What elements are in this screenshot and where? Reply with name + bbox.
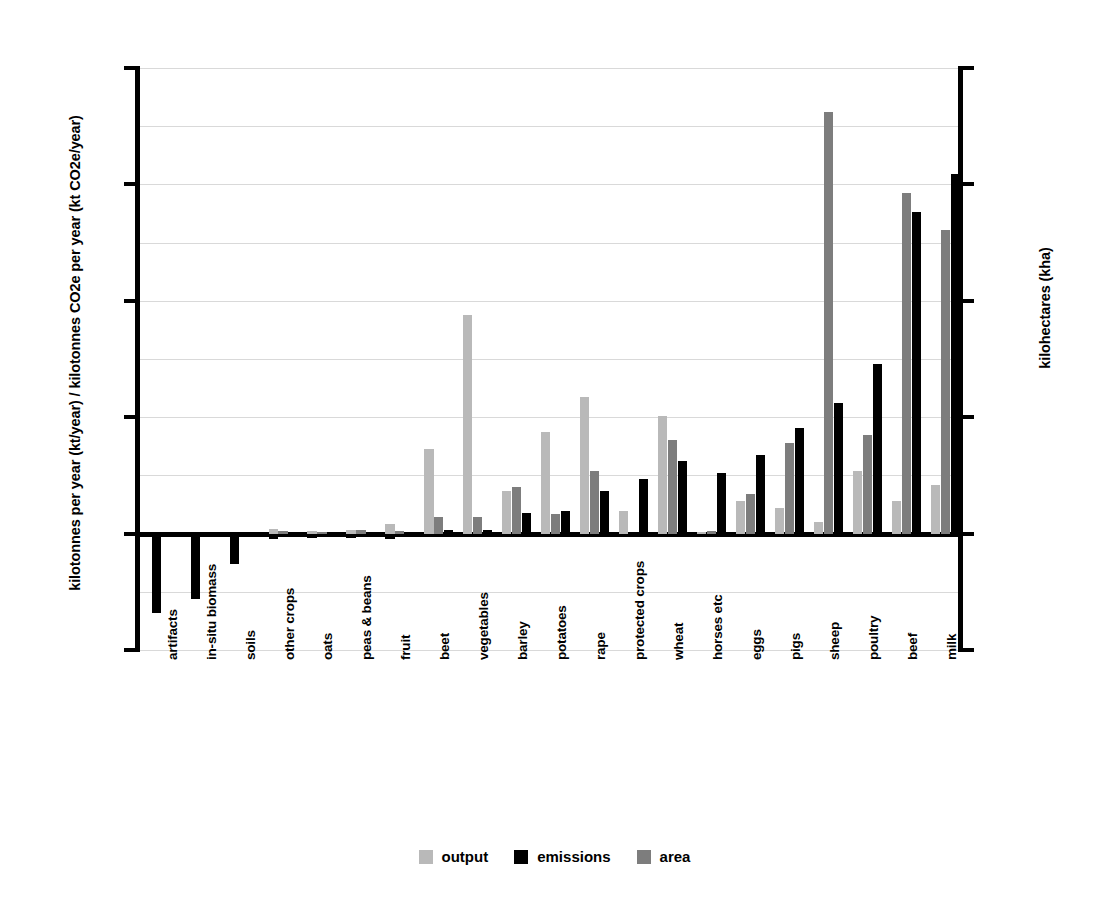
bar-area	[512, 487, 521, 534]
bar-area	[824, 112, 833, 533]
bar-output	[502, 491, 511, 533]
bar-group	[530, 68, 569, 650]
y-axis-right-tick	[963, 182, 974, 186]
bar-emissions	[346, 534, 355, 539]
chart-legend: outputemissionsarea	[0, 848, 1109, 865]
y-axis-left-tick	[124, 182, 135, 186]
bar-group	[218, 68, 257, 650]
legend-label: emissions	[537, 848, 610, 865]
bar-group	[413, 68, 452, 650]
bar-group	[802, 68, 841, 650]
x-axis-category-label: pigs	[788, 633, 803, 660]
x-axis-category-label: barley	[515, 621, 530, 660]
bar-area	[317, 532, 326, 533]
y-axis-left-tick	[124, 299, 135, 303]
y-axis-right-title: kilohectares (kha)	[1037, 143, 1053, 473]
legend-swatch-icon	[514, 850, 528, 864]
y-axis-left-tick	[124, 415, 135, 419]
bar-output	[385, 524, 394, 534]
x-axis-category-label: poultry	[866, 616, 881, 660]
bar-area	[863, 435, 872, 534]
x-axis-category-label: soils	[243, 630, 258, 660]
bar-area	[278, 531, 287, 533]
y-axis-left-tick	[124, 532, 135, 536]
bar-area	[746, 494, 755, 534]
bar-output	[736, 501, 745, 534]
bar-area	[551, 514, 560, 534]
bar-group	[257, 68, 296, 650]
bar-output	[541, 432, 550, 534]
y-axis-right-tick	[963, 66, 974, 70]
bar-emissions	[951, 174, 960, 533]
bar-group	[919, 68, 958, 650]
bar-output	[619, 511, 628, 533]
x-axis-category-label: in-situ biomass	[204, 564, 219, 660]
bar-emissions	[269, 534, 278, 540]
bar-output	[814, 522, 823, 534]
bar-area	[590, 471, 599, 534]
chart-figure: kilotonnes per year (kt/year) / kilotonn…	[0, 0, 1109, 910]
bar-area	[356, 530, 365, 533]
bar-output	[775, 508, 784, 534]
bar-output	[697, 532, 706, 533]
bar-group	[646, 68, 685, 650]
bar-group	[179, 68, 218, 650]
x-axis-category-label: peas & beans	[359, 575, 374, 660]
legend-item[interactable]: output	[419, 848, 489, 865]
bar-area	[434, 517, 443, 533]
bar-group	[452, 68, 491, 650]
x-axis-category-label: potatoes	[554, 605, 569, 660]
bar-layer	[140, 68, 958, 650]
x-axis-category-label: beet	[437, 633, 452, 660]
bar-group	[763, 68, 802, 650]
bar-group	[491, 68, 530, 650]
bar-output	[463, 315, 472, 534]
bar-group	[724, 68, 763, 650]
bar-group	[841, 68, 880, 650]
bar-emissions	[307, 534, 316, 538]
legend-swatch-icon	[637, 850, 651, 864]
bar-output	[853, 471, 862, 534]
bar-area	[707, 531, 716, 533]
bar-area	[395, 531, 404, 533]
bar-group	[140, 68, 179, 650]
bar-group	[374, 68, 413, 650]
bar-group	[685, 68, 724, 650]
bar-area	[785, 443, 794, 534]
bar-area	[902, 193, 911, 534]
bar-output	[658, 416, 667, 534]
x-axis-category-label: eggs	[749, 629, 764, 660]
bar-emissions	[230, 534, 239, 565]
x-axis-category-label: sheep	[827, 622, 842, 660]
x-axis-category-label: artifacts	[165, 609, 180, 660]
y-axis-right-tick	[963, 415, 974, 419]
bar-emissions	[152, 534, 161, 613]
legend-item[interactable]: area	[637, 848, 691, 865]
bar-group	[568, 68, 607, 650]
y-axis-right-tick	[963, 299, 974, 303]
legend-label: output	[442, 848, 489, 865]
legend-label: area	[660, 848, 691, 865]
bar-area	[668, 440, 677, 533]
x-axis-category-label: rape	[593, 632, 608, 660]
bar-output	[931, 485, 940, 534]
bar-area	[941, 230, 950, 534]
x-axis-category-label: protected crops	[632, 561, 647, 660]
y-axis-right-tick	[963, 532, 974, 536]
y-axis-right-tick	[963, 648, 974, 652]
bar-output	[424, 449, 433, 533]
bar-group	[335, 68, 374, 650]
plot-area: 20000150001000050000-5000400030002000100…	[140, 68, 958, 650]
bar-group	[880, 68, 919, 650]
x-axis-category-label: vegetables	[476, 592, 491, 660]
y-axis-left-tick	[124, 66, 135, 70]
bar-group	[296, 68, 335, 650]
y-axis-left-title: kilotonnes per year (kt/year) / kilotonn…	[67, 73, 83, 633]
x-axis-category-label: milk	[944, 634, 959, 660]
x-axis-category-label: fruit	[398, 635, 413, 660]
bar-output	[892, 501, 901, 533]
legend-item[interactable]: emissions	[514, 848, 610, 865]
legend-swatch-icon	[419, 850, 433, 864]
y-axis-left-tick	[124, 648, 135, 652]
x-axis-category-label: beef	[905, 633, 920, 660]
